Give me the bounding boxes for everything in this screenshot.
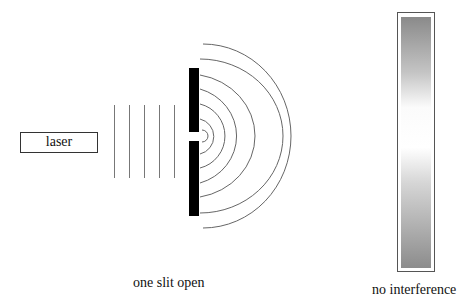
laser-label: laser [39, 134, 79, 150]
double-slit-diagram [0, 0, 468, 307]
barrier-lower [189, 141, 199, 216]
screen-caption: no interference [372, 282, 456, 298]
barrier [189, 68, 199, 216]
diffracted-waves [200, 44, 291, 228]
screen-pattern [401, 17, 431, 268]
incident-waves [115, 105, 175, 178]
barrier-upper [189, 68, 199, 132]
detection-screen [398, 13, 435, 272]
slit-caption: one slit open [133, 275, 205, 291]
